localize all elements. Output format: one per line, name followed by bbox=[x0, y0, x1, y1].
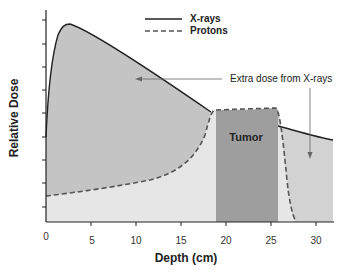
x-tick-label: 30 bbox=[310, 235, 322, 246]
x-tick-labels: 0 5 10 15 20 25 30 bbox=[43, 231, 322, 246]
legend-xray-label: X-rays bbox=[190, 13, 221, 24]
legend: X-rays Protons bbox=[145, 13, 228, 36]
y-axis-title: Relative Dose bbox=[7, 78, 21, 157]
tumor-label: Tumor bbox=[229, 131, 263, 143]
dose-depth-chart: 0 5 10 15 20 25 30 Depth (cm) Relative D… bbox=[0, 0, 342, 272]
x-tick-label: 15 bbox=[175, 235, 187, 246]
x-tick-label: 10 bbox=[130, 235, 142, 246]
x-tick-label: 5 bbox=[89, 235, 95, 246]
extra-dose-label: Extra dose from X-rays bbox=[230, 73, 332, 84]
x-tick-label: 20 bbox=[220, 235, 232, 246]
x-ticks bbox=[91, 222, 316, 226]
x-tick-label: 0 bbox=[43, 231, 49, 242]
x-axis-title: Depth (cm) bbox=[155, 251, 218, 265]
legend-proton-label: Protons bbox=[190, 25, 228, 36]
tumor-region bbox=[216, 110, 278, 222]
x-tick-label: 25 bbox=[265, 235, 277, 246]
